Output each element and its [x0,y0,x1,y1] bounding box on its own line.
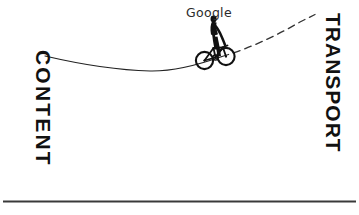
label-transport: TRANSPORT [323,13,344,41]
dashed-path [222,15,315,57]
cyclist-figure [196,16,235,70]
label-google-caption: Google [186,5,232,20]
diagram-canvas: CONTENT TRANSPORT Google [0,0,359,215]
label-content: CONTENT [33,50,54,78]
